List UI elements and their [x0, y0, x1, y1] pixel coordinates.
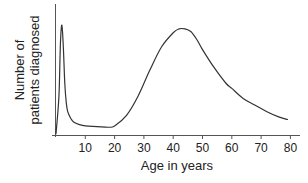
x-tick-label: 10	[79, 141, 93, 155]
x-tick-label: 50	[196, 141, 210, 155]
x-tick-label: 60	[225, 141, 239, 155]
x-tick-label: 40	[167, 141, 181, 155]
x-ticks	[85, 136, 290, 140]
x-tick-label: 70	[254, 141, 268, 155]
chart: 1020304050607080 Age in years Number of …	[0, 0, 308, 183]
x-tick-labels: 1020304050607080	[79, 141, 298, 155]
y-axis-title-line1: Number of	[12, 39, 27, 100]
data-line	[56, 25, 287, 134]
y-axis-title-line2: patients diagnosed	[27, 15, 42, 124]
x-tick-label: 20	[108, 141, 122, 155]
x-tick-label: 80	[284, 141, 298, 155]
x-axis-title: Age in years	[141, 158, 214, 173]
x-tick-label: 30	[137, 141, 151, 155]
